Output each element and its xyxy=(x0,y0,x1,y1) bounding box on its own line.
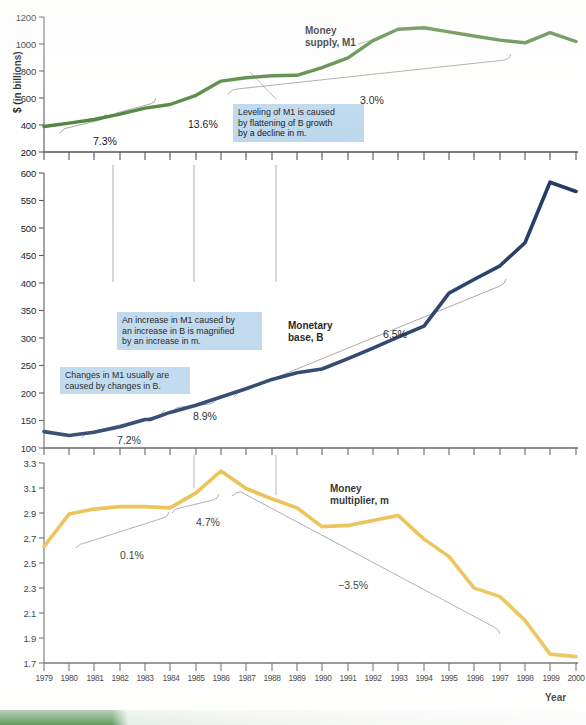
multiplier-ytick: 3.3 xyxy=(8,458,36,469)
decorative-bottom-bar-highlight xyxy=(0,710,586,725)
multiplier-series-line xyxy=(44,471,576,657)
m1-ytick: 1200 xyxy=(4,12,36,23)
x-tick-label: 1998 xyxy=(511,673,539,683)
m1-series-label-line1: Money xyxy=(305,25,337,36)
base-ytick: 400 xyxy=(4,278,36,289)
money-supply-figure: $ (in billions) xyxy=(0,0,586,725)
m1-ytick: 800 xyxy=(4,66,36,77)
multiplier-series-label-line1: Money xyxy=(330,483,362,494)
x-tick-label: 1981 xyxy=(81,673,109,683)
x-tick-label: 1980 xyxy=(55,673,83,683)
base-ytick: 600 xyxy=(4,168,36,179)
x-tick-label: 2000 xyxy=(562,673,586,683)
m1-ytick: 600 xyxy=(4,93,36,104)
multiplier-growth-neg-3-5: −3.5% xyxy=(338,579,368,591)
base-growth-6-5: 6.5% xyxy=(383,328,407,340)
panel-money-multiplier: 3.3 3.1 2.9 2.7 2.5 2.3 2.1 1.9 1.7 Mone… xyxy=(0,455,586,725)
base-ytick: 550 xyxy=(4,195,36,206)
x-tick-label: 1991 xyxy=(334,673,362,683)
m1-growth-7-3: 7.3% xyxy=(93,135,117,147)
m1-ytick: 200 xyxy=(4,147,36,158)
panel-money-supply: 1200 1000 800 600 400 200 Money supply, … xyxy=(0,0,586,165)
base-growth-7-2: 7.2% xyxy=(117,434,141,446)
base-ytick: 350 xyxy=(4,305,36,316)
multiplier-ytick: 2.1 xyxy=(8,608,36,619)
multiplier-series-label-line2: multiplier, m xyxy=(330,495,389,506)
base-ytick: 500 xyxy=(4,223,36,234)
multiplier-ytick: 1.7 xyxy=(8,658,36,669)
base-plot xyxy=(0,165,586,455)
x-tick-label: 1994 xyxy=(410,673,438,683)
base-callout-upper: An increase in M1 caused by an increase … xyxy=(117,312,262,350)
base-ytick: 200 xyxy=(4,388,36,399)
x-tick-label: 1984 xyxy=(157,673,185,683)
base-ytick: 300 xyxy=(4,333,36,344)
multiplier-ytick: 2.9 xyxy=(8,508,36,519)
base-series-label-line1: Monetary xyxy=(288,320,332,331)
base-callout-lower: Changes in M1 usually are caused by chan… xyxy=(60,367,190,394)
x-tick-label: 1996 xyxy=(461,673,489,683)
base-ytick: 100 xyxy=(4,443,36,454)
m1-callout-box: Leveling of M1 is caused by flattening o… xyxy=(233,104,364,142)
x-axis-label: Year xyxy=(545,692,566,703)
multiplier-plot xyxy=(0,455,586,695)
x-tick-label: 1997 xyxy=(486,673,514,683)
x-tick-label: 1990 xyxy=(309,673,337,683)
x-tick-label: 1987 xyxy=(233,673,261,683)
multiplier-ytick: 2.7 xyxy=(8,533,36,544)
m1-series-label: Money supply, M1 xyxy=(305,25,356,49)
multiplier-series-label: Money multiplier, m xyxy=(330,483,389,507)
x-tick-label: 1985 xyxy=(182,673,210,683)
panel-monetary-base: 600 550 500 450 400 350 300 250 200 150 … xyxy=(0,165,586,455)
x-tick-label: 1982 xyxy=(106,673,134,683)
base-series-label-line2: base, B xyxy=(288,332,324,343)
x-tick-label: 1988 xyxy=(258,673,286,683)
m1-ytick: 400 xyxy=(4,120,36,131)
multiplier-growth-4-7: 4.7% xyxy=(196,516,220,528)
x-tick-label: 1995 xyxy=(435,673,463,683)
x-tick-label: 1999 xyxy=(537,673,565,683)
x-tick-label: 1993 xyxy=(385,673,413,683)
base-ytick: 250 xyxy=(4,360,36,371)
multiplier-ytick: 1.9 xyxy=(8,633,36,644)
x-tick-label: 1986 xyxy=(207,673,235,683)
base-series-line xyxy=(44,182,576,435)
base-ytick: 150 xyxy=(4,415,36,426)
m1-series-label-line2: supply, M1 xyxy=(305,37,356,48)
x-tick-label: 1992 xyxy=(359,673,387,683)
base-series-label: Monetary base, B xyxy=(288,320,332,344)
multiplier-ytick: 2.3 xyxy=(8,583,36,594)
x-tick-label: 1979 xyxy=(30,673,58,683)
multiplier-growth-0-1: 0.1% xyxy=(120,549,144,561)
x-tick-label: 1989 xyxy=(283,673,311,683)
base-growth-8-9: 8.9% xyxy=(193,410,217,422)
base-ytick: 450 xyxy=(4,250,36,261)
m1-ytick: 1000 xyxy=(4,39,36,50)
m1-growth-13-6: 13.6% xyxy=(188,118,218,130)
multiplier-ytick: 3.1 xyxy=(8,483,36,494)
x-tick-label: 1983 xyxy=(131,673,159,683)
multiplier-ytick: 2.5 xyxy=(8,558,36,569)
